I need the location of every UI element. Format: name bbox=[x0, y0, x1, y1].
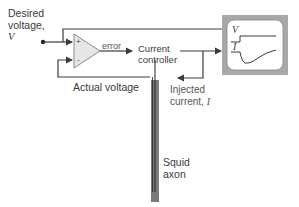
actual-voltage-feedback-wire bbox=[58, 60, 150, 77]
minus-terminal: - bbox=[77, 54, 80, 66]
desired-voltage-to-scope-wire bbox=[63, 29, 228, 42]
plus-terminal: + bbox=[76, 36, 81, 48]
desired-voltage-label: Desired voltage, V bbox=[8, 7, 45, 43]
actual-voltage-label: Actual voltage bbox=[73, 81, 139, 93]
voltage-clamp-diagram bbox=[0, 0, 299, 207]
scope-v-label: V bbox=[232, 24, 238, 36]
scope-i-label: I bbox=[233, 41, 236, 53]
injected-current-wire bbox=[178, 51, 203, 78]
current-controller-label: Current controller bbox=[138, 43, 177, 65]
error-label: error bbox=[102, 40, 121, 52]
injected-current-label: Injected current, I bbox=[170, 84, 210, 108]
squid-axon-label: Squid axon bbox=[163, 156, 190, 180]
